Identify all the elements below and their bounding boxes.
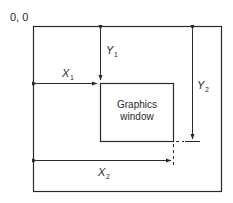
graphics-window-label-line2: window	[119, 111, 154, 122]
svg-text:2: 2	[205, 86, 209, 93]
origin-label: 0, 0	[10, 11, 28, 23]
x1-label: X 1	[61, 67, 74, 81]
svg-text:1: 1	[114, 51, 118, 58]
svg-text:Y: Y	[197, 79, 205, 91]
y2-label: Y 2	[197, 79, 209, 93]
svg-text:2: 2	[106, 173, 110, 180]
y1-label: Y 1	[106, 44, 118, 58]
x2-label: X 2	[97, 166, 110, 180]
svg-text:1: 1	[70, 74, 74, 81]
svg-text:X: X	[97, 166, 106, 178]
graphics-window-label-line1: Graphics	[117, 99, 157, 110]
svg-text:Y: Y	[106, 44, 114, 56]
graphics-window-diagram: 0, 0 Graphics window Y 1 X 1 Y 2 X 2	[0, 0, 233, 203]
svg-text:X: X	[61, 67, 70, 79]
